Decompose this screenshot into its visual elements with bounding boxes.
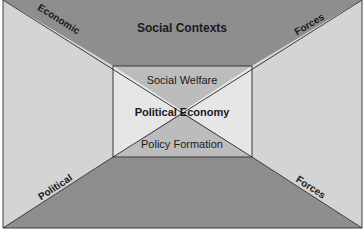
policy-formation-label: Policy Formation xyxy=(141,138,223,150)
social-contexts-label: Social Contexts xyxy=(137,21,227,35)
social-welfare-label: Social Welfare xyxy=(147,74,218,86)
political-economy-label: Political Economy xyxy=(135,106,231,118)
political-economy-diagram: Social Contexts Social Welfare Political… xyxy=(0,0,364,232)
